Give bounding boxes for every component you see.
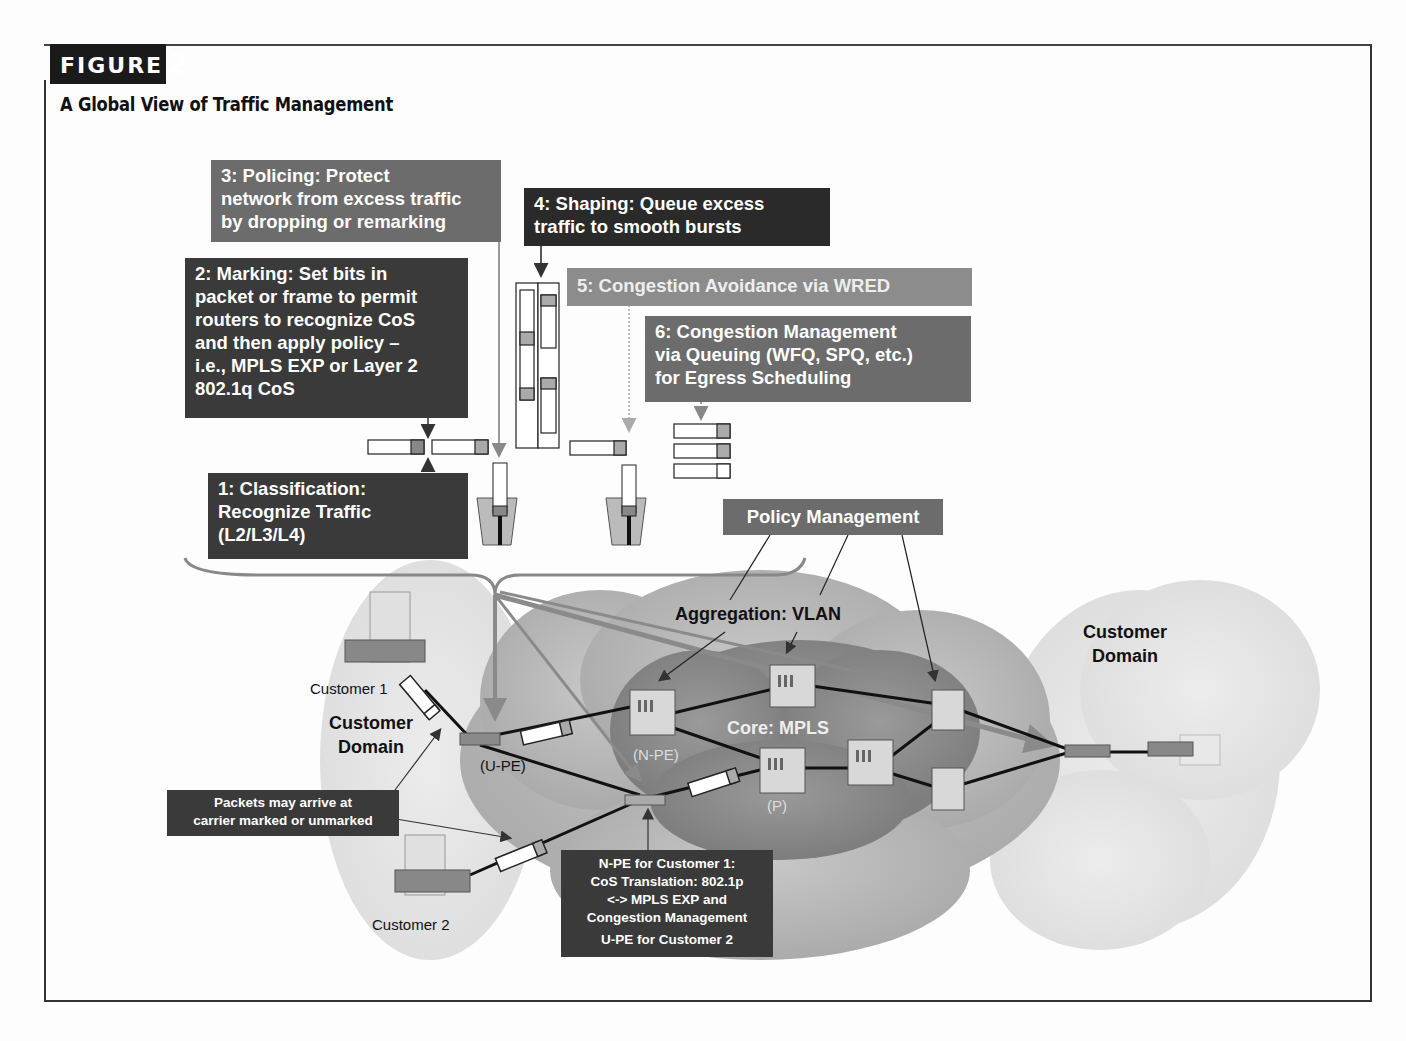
- policing-line: 3: Policing: Protect: [221, 164, 491, 187]
- customer-1-label: Customer 1: [310, 680, 388, 697]
- npe-callout: N-PE for Customer 1: CoS Translation: 80…: [561, 850, 773, 957]
- marking-line: 2: Marking: Set bits in: [195, 262, 458, 285]
- u-pe-label: (U-PE): [480, 757, 526, 774]
- classification-line: (L2/L3/L4): [218, 523, 458, 546]
- buckets: [477, 463, 646, 545]
- packets-callout: Packets may arrive at carrier marked or …: [167, 790, 399, 836]
- step-5-congestion-avoidance-box: 5: Congestion Avoidance via WRED: [567, 268, 972, 306]
- policy-management-label: Policy Management: [747, 506, 920, 527]
- npe-callout-line: N-PE for Customer 1:: [567, 855, 767, 873]
- left-customer-domain-label: Customer Domain: [316, 711, 426, 759]
- step-3-policing-box: 3: Policing: Protect network from excess…: [211, 160, 501, 242]
- policing-line: network from excess traffic: [221, 187, 491, 210]
- step-6-congestion-management-box: 6: Congestion Management via Queuing (WF…: [645, 316, 971, 402]
- step-2-marking-box: 2: Marking: Set bits in packet or frame …: [185, 258, 468, 418]
- npe-callout-line: Congestion Management: [567, 909, 767, 927]
- domain-line: Domain: [316, 735, 426, 759]
- aggregation-label: Aggregation: VLAN: [675, 602, 841, 626]
- classification-line: 1: Classification:: [218, 477, 458, 500]
- right-customer-domain-label: Customer Domain: [1070, 620, 1180, 668]
- p-label: (P): [767, 797, 787, 814]
- step-4-shaping-box: 4: Shaping: Queue excess traffic to smoo…: [524, 188, 830, 246]
- policy-management-box: Policy Management: [723, 499, 943, 535]
- marking-line: routers to recognize CoS: [195, 308, 458, 331]
- domain-line: Domain: [1070, 644, 1180, 668]
- classification-line: Recognize Traffic: [218, 500, 458, 523]
- congestion-management-line: via Queuing (WFQ, SPQ, etc.): [655, 343, 961, 366]
- packets-callout-line: carrier marked or unmarked: [173, 812, 393, 830]
- npe-callout-line: CoS Translation: 802.1p: [567, 873, 767, 891]
- shaping-line: traffic to smooth bursts: [534, 215, 820, 238]
- marking-line: and then apply policy –: [195, 331, 458, 354]
- marking-line: 802.1q CoS: [195, 377, 458, 400]
- n-pe-label: (N-PE): [633, 746, 679, 763]
- customer-2-label: Customer 2: [372, 916, 450, 933]
- npe-callout-footer: U-PE for Customer 2: [567, 931, 767, 949]
- step-1-classification-box: 1: Classification: Recognize Traffic (L2…: [208, 473, 468, 559]
- core-label: Core: MPLS: [727, 718, 829, 739]
- congestion-avoidance-line: 5: Congestion Avoidance via WRED: [577, 272, 962, 300]
- shaping-queue: [516, 283, 559, 448]
- domain-line: Customer: [1070, 620, 1180, 644]
- policing-line: by dropping or remarking: [221, 210, 491, 233]
- congestion-management-line: for Egress Scheduling: [655, 366, 961, 389]
- marking-line: packet or frame to permit: [195, 285, 458, 308]
- domain-line: Customer: [316, 711, 426, 735]
- npe-callout-line: <-> MPLS EXP and: [567, 891, 767, 909]
- marking-line: i.e., MPLS EXP or Layer 2: [195, 354, 458, 377]
- shaping-line: 4: Shaping: Queue excess: [534, 192, 820, 215]
- packets-callout-line: Packets may arrive at: [173, 794, 393, 812]
- congestion-management-line: 6: Congestion Management: [655, 320, 961, 343]
